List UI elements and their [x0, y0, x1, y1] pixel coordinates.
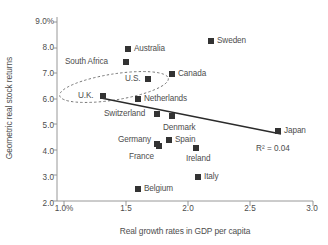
marker-belgium[interactable] — [135, 186, 141, 192]
point-label-france: France — [129, 152, 154, 161]
r-squared-annotation: R² = 0.04 — [256, 144, 290, 153]
point-label-germany: Germany — [118, 135, 151, 144]
point-label-spain: Spain — [175, 135, 195, 144]
marker-switzerland[interactable] — [154, 111, 160, 117]
scatter-chart-figure: Geometric real stock returns Real growth… — [0, 0, 328, 245]
point-label-japan: Japan — [284, 126, 306, 135]
point-label-belgium: Belgium — [144, 184, 173, 193]
axis-spines — [57, 17, 313, 201]
point-label-us: U.S. — [125, 74, 141, 83]
point-label-netherlands: Netherlands — [144, 94, 187, 103]
y-axis-ticks — [53, 22, 57, 201]
point-label-australia: Australia — [134, 44, 165, 53]
point-label-sweden: Sweden — [217, 36, 246, 45]
x-axis-ticks — [64, 201, 313, 206]
marker-us[interactable] — [145, 76, 151, 82]
point-label-italy: Italy — [204, 172, 219, 181]
point-label-uk: U.K. — [78, 91, 94, 100]
marker-france[interactable] — [156, 143, 162, 149]
point-label-denmark: Denmark — [163, 123, 196, 132]
point-label-canada: Canada — [178, 69, 206, 78]
point-label-ireland: Ireland — [186, 154, 210, 163]
point-label-switzerland: Switzerland — [104, 109, 145, 118]
marker-uk[interactable] — [100, 93, 106, 99]
marker-south-africa[interactable] — [123, 59, 129, 65]
marker-canada[interactable] — [169, 71, 175, 77]
marker-sweden[interactable] — [208, 38, 214, 44]
marker-netherlands[interactable] — [135, 96, 141, 102]
marker-ireland[interactable] — [193, 145, 199, 151]
marker-italy[interactable] — [195, 174, 201, 180]
marker-japan[interactable] — [275, 128, 281, 134]
marker-spain[interactable] — [166, 137, 172, 143]
marker-australia[interactable] — [125, 46, 131, 52]
point-label-south-africa: South Africa — [65, 57, 108, 66]
marker-denmark[interactable] — [169, 113, 175, 119]
